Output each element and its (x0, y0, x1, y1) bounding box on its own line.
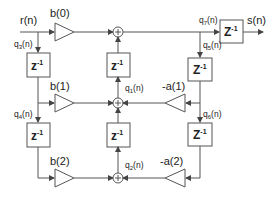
signal-label-q7: q7(n) (199, 15, 218, 26)
svg-text:q1(n): q1(n) (125, 83, 144, 94)
gain-label-a1: -a(1) (162, 80, 185, 92)
svg-text:q2(n): q2(n) (125, 160, 144, 171)
svg-text:q6(n): q6(n) (203, 109, 222, 120)
gain-label-b0: b(0) (50, 7, 70, 19)
svg-text:q3(n): q3(n) (14, 39, 33, 50)
signal-label-q4: q4(n) (14, 109, 33, 120)
output-label: s(n) (247, 14, 266, 26)
wire-to-a2 (186, 146, 200, 178)
signal-label-q5: q5(n) (203, 40, 222, 51)
svg-text:q7(n): q7(n) (199, 15, 218, 26)
gain-b2-triangle (55, 169, 74, 187)
gain-a2-triangle (165, 169, 185, 187)
gain-label-b2: b(2) (50, 155, 70, 167)
signal-label-q2: q2(n) (125, 160, 144, 171)
signal-label-q1: q1(n) (125, 83, 144, 94)
signal-label-q3: q3(n) (14, 39, 33, 50)
iir-filter-diagram: r(n) b(0) q7(n) Z-1 s(n) q3(n) z-1 b(1) … (0, 0, 279, 199)
signal-label-q6: q6(n) (203, 109, 222, 120)
gain-label-b1: b(1) (50, 80, 70, 92)
input-label: r(n) (20, 14, 37, 26)
gain-label-a2: -a(2) (160, 155, 183, 167)
svg-text:q4(n): q4(n) (14, 109, 33, 120)
gain-b0-triangle (55, 23, 74, 41)
gain-a1-triangle (165, 94, 185, 112)
svg-text:q5(n): q5(n) (203, 40, 222, 51)
gain-b1-triangle (55, 94, 74, 112)
